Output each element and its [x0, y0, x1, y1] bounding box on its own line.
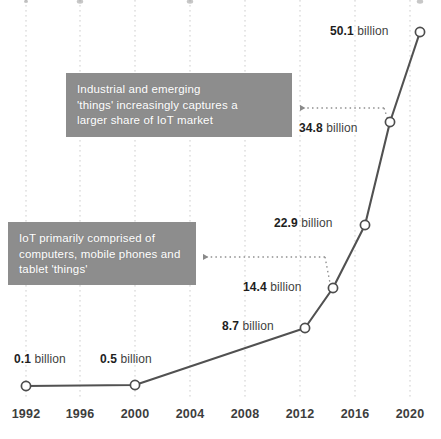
value-label-2020-number: 50.1 — [330, 24, 354, 38]
data-point-2000 — [130, 380, 139, 389]
annotation-industrial-line-3: larger share of IoT market — [77, 113, 282, 129]
x-axis-tick-2020: 2020 — [396, 407, 425, 421]
value-label-2000-unit: billion — [120, 352, 151, 366]
value-label-2020-unit: billion — [357, 24, 388, 38]
value-label-2012: 8.7 billion — [222, 319, 274, 333]
chart-graphics — [0, 0, 441, 439]
x-axis-tick-1992: 1992 — [12, 407, 41, 421]
annotation-composition-line-1: IoT primarily comprised of — [19, 231, 186, 247]
data-point-2012 — [300, 323, 309, 332]
chart-canvas: Industrial and emerging 'things' increas… — [0, 0, 441, 439]
value-label-2016-number: 22.9 — [274, 216, 298, 230]
x-axis-tick-2008: 2008 — [231, 407, 260, 421]
annotation-box-iot-composition: IoT primarily comprised of computers, mo… — [8, 222, 196, 285]
value-label-2012-number: 8.7 — [222, 319, 239, 333]
x-axis-tick-2016: 2016 — [341, 407, 370, 421]
value-label-2014: 14.4 billion — [243, 280, 302, 294]
value-label-1992: 0.1 billion — [14, 352, 66, 366]
gridlines — [26, 0, 410, 398]
value-label-2014-number: 14.4 — [243, 280, 267, 294]
data-point-2016 — [360, 220, 369, 229]
leader-line-upper — [300, 108, 388, 120]
value-label-1992-number: 0.1 — [14, 352, 31, 366]
annotation-box-industrial: Industrial and emerging 'things' increas… — [66, 73, 292, 137]
annotation-industrial-line-2: 'things' increasingly captures a — [77, 98, 282, 114]
annotation-composition-line-2: computers, mobile phones and — [19, 247, 186, 263]
data-point-2020 — [415, 27, 424, 36]
cropped-top-row — [24, 0, 423, 4]
value-label-1992-unit: billion — [34, 352, 65, 366]
value-label-2000: 0.5 billion — [100, 352, 152, 366]
value-label-2018: 34.8 billion — [299, 121, 358, 135]
x-axis-tick-2004: 2004 — [176, 407, 205, 421]
data-point-2014 — [328, 283, 337, 292]
value-label-2018-number: 34.8 — [299, 121, 323, 135]
data-point-2018 — [385, 117, 394, 126]
value-label-2000-number: 0.5 — [100, 352, 117, 366]
x-axis-tick-2012: 2012 — [286, 407, 315, 421]
value-label-2012-unit: billion — [242, 319, 273, 333]
x-axis-tick-2000: 2000 — [121, 407, 150, 421]
value-label-2016: 22.9 billion — [274, 216, 333, 230]
annotation-industrial-line-1: Industrial and emerging — [77, 82, 282, 98]
value-label-2014-unit: billion — [270, 280, 301, 294]
data-point-1992 — [21, 381, 30, 390]
value-label-2016-unit: billion — [301, 216, 332, 230]
annotation-composition-line-3: tablet 'things' — [19, 262, 186, 278]
value-label-2018-unit: billion — [326, 121, 357, 135]
value-label-2020: 50.1 billion — [330, 24, 389, 38]
x-axis-tick-1996: 1996 — [66, 407, 95, 421]
